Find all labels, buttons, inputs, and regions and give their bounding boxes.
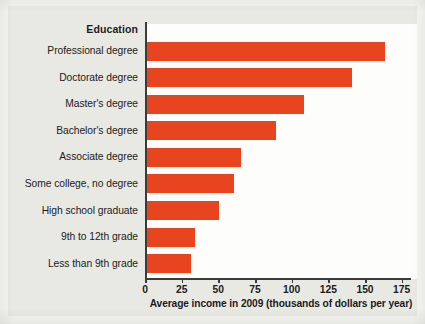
bar-doctorate-degree[interactable]: [147, 68, 352, 87]
bar-less-than-9th-grade[interactable]: [147, 254, 191, 273]
bar-row: High school graduate: [8, 198, 417, 225]
bar-track: [147, 38, 411, 65]
bar-associate-degree[interactable]: [147, 148, 241, 167]
bar-track: [147, 198, 411, 225]
category-label: Associate degree: [8, 144, 138, 171]
bar-track: [147, 171, 411, 198]
bar-professional-degree[interactable]: [147, 42, 385, 61]
category-label: 9th to 12th grade: [8, 224, 138, 251]
bar-row: Less than 9th grade: [8, 251, 417, 278]
bar-track: [147, 65, 411, 92]
x-axis-tick-label: 125: [320, 284, 337, 295]
x-axis-tick-labels: 0255075100125150175: [145, 284, 411, 298]
bar-9th-to-12th-grade[interactable]: [147, 228, 195, 247]
bar-masters-degree[interactable]: [147, 95, 304, 114]
bar-row: Master's degree: [8, 91, 417, 118]
category-axis-title: Education: [8, 23, 138, 35]
x-axis-tick: [328, 278, 330, 283]
bar-row: Professional degree: [8, 38, 417, 65]
x-axis-tick-label: 150: [356, 284, 373, 295]
category-label: Doctorate degree: [8, 65, 138, 92]
x-axis-tick: [145, 278, 147, 283]
bar-rows: Professional degree Doctorate degree Mas…: [8, 38, 417, 278]
category-label: Less than 9th grade: [8, 251, 138, 278]
bar-bachelors-degree[interactable]: [147, 121, 276, 140]
x-axis-tick-label: 0: [142, 284, 148, 295]
bar-track: [147, 91, 411, 118]
scanned-page: Education Professional degree Doctorate …: [0, 0, 425, 324]
bar-row: Some college, no degree: [8, 171, 417, 198]
bar-chart-figure: Education Professional degree Doctorate …: [8, 6, 417, 316]
x-axis-tick-label: 100: [283, 284, 300, 295]
x-axis-tick-label: 75: [249, 284, 260, 295]
category-label: Master's degree: [8, 91, 138, 118]
x-axis-tick: [218, 278, 220, 283]
category-label: Professional degree: [8, 38, 138, 65]
bar-high-school-graduate[interactable]: [147, 201, 219, 220]
x-axis-tick: [255, 278, 257, 283]
x-axis-title: Average income in 2009 (thousands of dol…: [145, 298, 417, 309]
bar-row: Doctorate degree: [8, 65, 417, 92]
bar-row: Bachelor's degree: [8, 118, 417, 145]
bar-track: [147, 224, 411, 251]
x-axis-tick: [292, 278, 294, 283]
bar-row: Associate degree: [8, 144, 417, 171]
x-axis-tick-label: 175: [393, 284, 410, 295]
x-axis-tick-label: 25: [176, 284, 187, 295]
bar-track: [147, 118, 411, 145]
x-axis-tick-label: 50: [213, 284, 224, 295]
x-axis-tick: [182, 278, 184, 283]
category-label: Some college, no degree: [8, 171, 138, 198]
bar-track: [147, 144, 411, 171]
category-label: Bachelor's degree: [8, 118, 138, 145]
bar-some-college-no-degree[interactable]: [147, 174, 234, 193]
bar-row: 9th to 12th grade: [8, 224, 417, 251]
category-label: High school graduate: [8, 198, 138, 225]
x-axis-tick: [402, 278, 404, 283]
x-axis-tick: [365, 278, 367, 283]
bar-track: [147, 251, 411, 278]
